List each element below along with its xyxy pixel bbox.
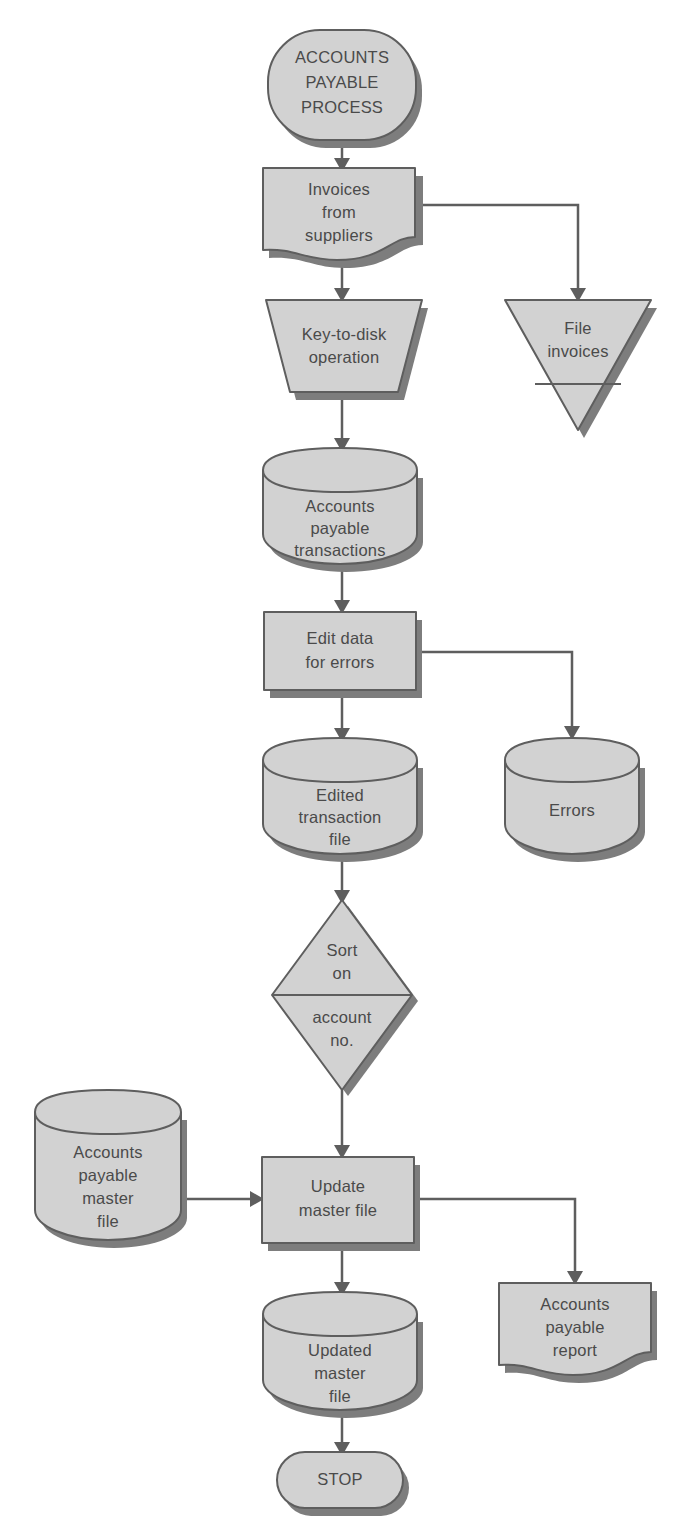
node-edit-data[interactable]: Edit data for errors (264, 612, 422, 698)
updated-master-line-1: Updated (308, 1341, 372, 1359)
connector-edit-data-to-errors (416, 652, 580, 740)
start-line-2: PAYABLE (306, 73, 379, 91)
ap-transactions-line-3: transactions (294, 541, 385, 559)
ap-master-line-3: master (82, 1189, 134, 1207)
node-ap-report[interactable]: Accounts payable report (499, 1283, 657, 1383)
node-errors[interactable]: Errors (505, 738, 645, 862)
ap-master-line-4: file (97, 1212, 119, 1230)
start-line-3: PROCESS (301, 98, 383, 116)
sort-bottom-line-1: account (312, 1008, 371, 1026)
node-ap-master-file[interactable]: Accounts payable master file (35, 1090, 187, 1248)
ap-report-line-2: payable (545, 1318, 604, 1336)
edited-file-line-1: Edited (316, 786, 364, 804)
connector-sort-to-update (334, 1090, 350, 1159)
update-master-line-2: master file (299, 1201, 377, 1219)
key-to-disk-line-2: operation (309, 348, 380, 366)
node-key-to-disk-operation[interactable]: Key-to-disk operation (266, 300, 428, 400)
start-line-1: ACCOUNTS (295, 48, 389, 66)
ap-report-line-1: Accounts (540, 1295, 609, 1313)
node-stop-terminator[interactable]: STOP (277, 1452, 409, 1516)
ap-transactions-line-2: payable (310, 519, 369, 537)
connector-master-file-to-update (181, 1191, 264, 1207)
node-start-terminator[interactable]: ACCOUNTS PAYABLE PROCESS (268, 30, 422, 148)
sort-top-line-1: Sort (326, 941, 357, 959)
flowchart-svg: ACCOUNTS PAYABLE PROCESS Invoices from s… (0, 0, 693, 1540)
invoices-line-2: from (322, 203, 356, 221)
invoices-line-3: suppliers (305, 226, 373, 244)
edit-data-line-2: for errors (306, 653, 375, 671)
ap-master-line-2: payable (78, 1166, 137, 1184)
file-invoices-line-1: File (564, 319, 591, 337)
sort-top-line-2: on (333, 964, 352, 982)
connector-invoices-to-key-to-disk (334, 262, 350, 302)
sort-bottom-line-2: no. (330, 1031, 354, 1049)
connector-key-to-disk-to-transactions (334, 392, 350, 452)
edit-data-line-1: Edit data (307, 629, 375, 647)
file-invoices-line-2: invoices (547, 342, 608, 360)
stop-label: STOP (317, 1470, 362, 1488)
update-master-line-1: Update (311, 1177, 365, 1195)
connector-invoices-to-file-invoices (415, 205, 586, 302)
flowchart-canvas: ACCOUNTS PAYABLE PROCESS Invoices from s… (0, 0, 693, 1540)
ap-master-line-1: Accounts (73, 1143, 142, 1161)
node-updated-master-file[interactable]: Updated master file (263, 1292, 423, 1418)
connector-update-to-report (414, 1199, 583, 1285)
invoices-line-1: Invoices (308, 180, 370, 198)
node-edited-transaction-file[interactable]: Edited transaction file (263, 738, 423, 862)
node-invoices-from-suppliers[interactable]: Invoices from suppliers (263, 168, 423, 268)
key-to-disk-line-1: Key-to-disk (302, 325, 387, 343)
node-file-invoices[interactable]: File invoices (505, 300, 657, 438)
ap-report-line-3: report (553, 1341, 598, 1359)
errors-line-1: Errors (549, 801, 595, 819)
node-update-master-file[interactable]: Update master file (262, 1157, 420, 1251)
edited-file-line-2: transaction (299, 808, 382, 826)
edited-file-line-3: file (329, 830, 351, 848)
node-sort-on-account-no[interactable]: Sort on account no. (272, 900, 418, 1096)
node-ap-transactions[interactable]: Accounts payable transactions (263, 448, 423, 572)
updated-master-line-3: file (329, 1387, 351, 1405)
ap-transactions-line-1: Accounts (305, 497, 374, 515)
updated-master-line-2: master (314, 1364, 366, 1382)
